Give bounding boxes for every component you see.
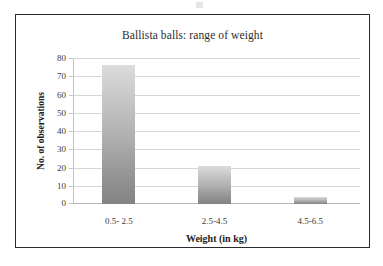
y-tick-label: 60: [57, 89, 66, 99]
x-tick-label: 4.5-6.5: [297, 216, 323, 226]
y-tick-label: 10: [57, 181, 66, 191]
y-tick-label: 20: [57, 162, 66, 172]
y-tick-label: 80: [57, 53, 66, 63]
y-tick-label: 0: [62, 198, 67, 208]
chart-title: Ballista balls: range of weight: [16, 29, 369, 41]
scan-artifact: [196, 2, 203, 8]
y-tick-label: 40: [57, 126, 66, 136]
x-axis-title: Weight (in kg): [73, 233, 360, 244]
y-tick-label: 50: [57, 108, 66, 118]
bar-series: [73, 58, 360, 204]
x-tick-label: 0.5- 2.5: [105, 216, 133, 226]
bar: [294, 197, 327, 204]
y-tick-label: 70: [57, 71, 66, 81]
chart-page: Ballista balls: range of weight No. of o…: [0, 0, 383, 266]
bar: [198, 166, 231, 204]
chart-frame: Ballista balls: range of weight No. of o…: [15, 14, 370, 248]
y-axis-title: No. of observations: [35, 58, 47, 204]
plot-area: 01020304050607080 0.5- 2.52.5-4.54.5-6.5…: [73, 58, 360, 204]
bar: [102, 65, 135, 204]
x-tick-label: 2.5-4.5: [202, 216, 228, 226]
y-tick-label: 30: [57, 144, 66, 154]
